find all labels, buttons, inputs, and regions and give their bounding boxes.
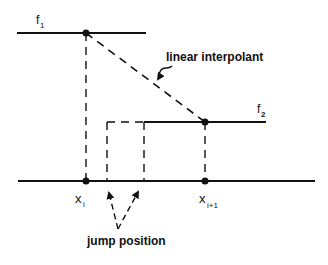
interpolation-diagram: linear interpolant f 1 f 2 x i x i+1 jum… xyxy=(0,0,328,265)
jump-arrow-right-icon xyxy=(118,192,138,229)
linear-interpolant-arrow-icon xyxy=(158,66,172,79)
linear-interpolant-label: linear interpolant xyxy=(166,50,263,64)
f2-point xyxy=(202,119,209,126)
f1-subscript: 1 xyxy=(40,21,45,30)
xi-label: x xyxy=(75,191,82,206)
xi1-point xyxy=(202,178,209,185)
jump-position-label: jump position xyxy=(86,234,166,248)
xi-subscript: i xyxy=(83,200,85,209)
f2-subscript: 2 xyxy=(261,110,266,119)
xi1-label: x xyxy=(199,191,206,206)
f1-point xyxy=(83,30,90,37)
xi1-subscript: i+1 xyxy=(207,201,218,210)
jump-arrow-left-icon xyxy=(109,193,118,229)
linear-interpolant-line xyxy=(86,33,205,122)
xi-point xyxy=(83,178,90,185)
